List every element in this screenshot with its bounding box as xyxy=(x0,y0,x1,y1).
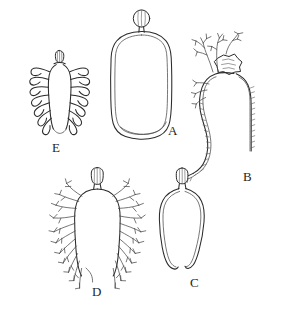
panel-d-drawing xyxy=(49,168,146,289)
panel-b-body-right-contour xyxy=(236,74,251,151)
panel-e-collar xyxy=(54,62,65,63)
panel-d-body-inner-fold xyxy=(86,268,93,282)
panel-c-right-limb-inner xyxy=(185,191,201,266)
figure-label-e: E xyxy=(52,141,60,154)
panel-c-drawing xyxy=(159,168,204,269)
panel-b-body-left-contour xyxy=(193,73,234,174)
panel-d-body-left xyxy=(75,189,98,276)
panel-a-drawing xyxy=(111,10,172,139)
panel-b-right-double-line xyxy=(239,77,250,151)
figure-label-a: A xyxy=(168,124,178,137)
panel-a-outer-contour xyxy=(111,32,172,140)
panel-b-aperture-star xyxy=(215,54,243,75)
panel-e-axis-base xyxy=(53,129,66,133)
panel-e-drawing xyxy=(30,50,90,134)
panel-c-right-limb xyxy=(186,189,204,269)
panel-b-drawing xyxy=(183,32,255,184)
panel-e-left-lobes xyxy=(30,68,52,135)
plate-drawing xyxy=(0,0,281,318)
panel-d-left-branches xyxy=(49,179,82,289)
panel-d-right-branches xyxy=(113,179,146,289)
figure-label-b: B xyxy=(243,170,252,183)
panel-d-body-right xyxy=(97,189,120,276)
figure-label-c: C xyxy=(190,276,199,289)
panel-c-left-limb-inner xyxy=(163,191,180,267)
panel-a-inner-contour xyxy=(115,35,168,135)
panel-d-neck-right xyxy=(100,184,101,189)
figure-label-d: D xyxy=(92,285,102,298)
panel-c-left-limb xyxy=(159,189,179,269)
figure-plate: A B C D E xyxy=(0,0,281,318)
panel-e-right-lobes xyxy=(68,68,90,135)
panel-d-neck-left xyxy=(94,184,95,189)
